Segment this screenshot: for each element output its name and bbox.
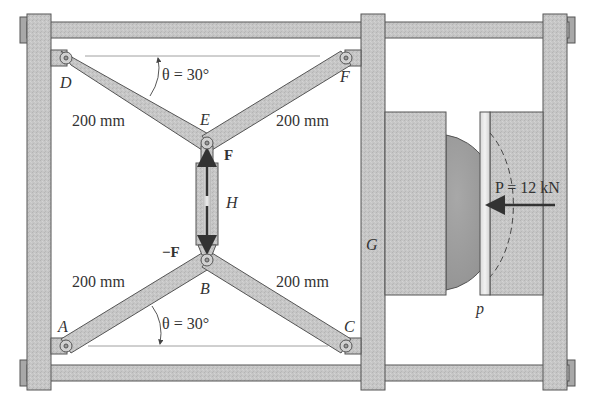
label-B: B (200, 280, 210, 297)
link-BC (202, 253, 351, 353)
length-label-EF: 200 mm (276, 112, 329, 129)
label-H: H (225, 194, 239, 211)
angle-arc-top (150, 58, 159, 96)
force-label-F: F (224, 147, 233, 163)
label-E: E (199, 111, 210, 128)
angle-label-top: θ = 30° (162, 66, 209, 83)
link-EF (202, 51, 351, 150)
toggle-press-diagram: D F E H B A C G p θ = 30° θ = 30° 200 mm… (0, 0, 594, 406)
angle-label-bottom: θ = 30° (162, 315, 209, 332)
middle-column-G (361, 14, 385, 390)
right-column (543, 14, 567, 390)
label-D: D (59, 74, 72, 91)
force-label-minus-F: −F (162, 244, 180, 260)
bottom-bar (27, 365, 569, 381)
left-column (27, 14, 51, 390)
left-press-block (385, 112, 446, 295)
length-label-DE: 200 mm (72, 112, 125, 129)
length-label-AB: 200 mm (72, 273, 125, 290)
label-C: C (344, 318, 355, 335)
link-AB (61, 253, 212, 353)
top-bar (27, 22, 569, 38)
right-press-block (490, 112, 543, 295)
load-label-P: P = 12 kN (495, 179, 560, 196)
length-label-BC: 200 mm (276, 273, 329, 290)
label-p: p (475, 300, 484, 318)
label-F: F (339, 68, 350, 85)
angle-arc-bottom (152, 306, 161, 344)
plate-p (480, 112, 490, 295)
label-A: A (57, 318, 68, 335)
label-G: G (366, 236, 378, 253)
